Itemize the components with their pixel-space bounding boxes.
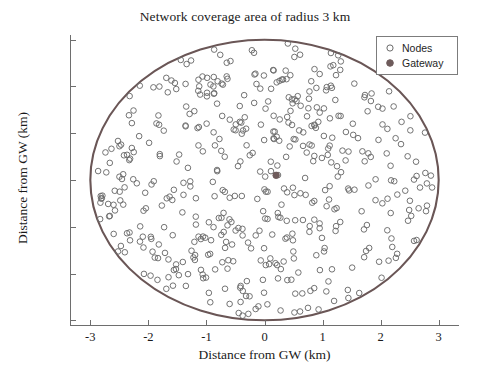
node-marker [140,234,146,240]
y-tick-mark [71,180,76,181]
node-marker [137,224,143,230]
node-marker [343,158,349,164]
node-marker [307,89,313,95]
node-marker [261,137,267,143]
node-marker [290,238,296,244]
node-marker [389,236,395,242]
node-marker [235,163,241,169]
node-marker [268,86,274,92]
node-marker [365,108,371,114]
node-marker [391,178,397,184]
node-marker [300,143,306,149]
node-marker [166,257,172,263]
x-axis-label: Distance from GW (km) [70,347,459,363]
node-markers-group [95,41,435,319]
node-marker [319,235,325,241]
node-marker [326,197,332,203]
node-marker [122,185,128,191]
node-marker [424,203,430,209]
node-marker [321,133,327,139]
x-tick-mark [148,320,149,325]
node-marker [369,91,375,97]
node-marker [388,163,394,169]
figure-canvas: Network coverage area of radius 3 km -3-… [0,0,490,376]
node-marker [424,181,430,187]
node-marker [304,113,310,119]
node-marker [188,58,194,64]
node-marker [327,116,333,122]
node-marker [265,99,271,105]
node-marker [268,256,274,262]
node-marker [306,105,312,111]
node-marker [376,259,382,265]
node-marker [323,88,329,94]
node-marker [416,205,422,211]
node-marker [275,163,281,169]
node-marker [345,287,351,293]
node-marker [261,245,267,251]
node-marker [170,232,176,238]
node-marker [212,143,218,149]
node-marker [136,133,142,139]
x-tick-label: -1 [201,330,211,345]
node-marker [291,256,297,262]
node-marker [193,222,199,228]
node-marker [115,249,121,255]
node-marker [405,154,411,160]
node-marker [407,198,413,204]
page-title: Network coverage area of radius 3 km [0,9,490,25]
node-marker [328,160,334,166]
node-marker [211,47,217,53]
node-marker [271,113,277,119]
gateway-marker-group [273,172,279,178]
node-marker [227,195,233,201]
filled-circle-icon [381,58,399,68]
node-marker [275,276,281,282]
x-tick-mark [265,320,266,325]
node-marker [346,149,352,155]
node-marker [210,179,216,185]
node-marker [254,81,260,87]
node-marker [187,111,193,117]
node-marker [399,119,405,125]
x-tick-mark [206,320,207,325]
node-marker [262,174,268,180]
node-marker [352,81,358,87]
node-marker [329,135,335,141]
node-marker [305,305,311,311]
node-marker [207,299,213,305]
node-marker [127,93,133,99]
node-marker [129,120,135,126]
node-marker [148,273,154,279]
node-marker [292,54,298,60]
coverage-boundary-circle [90,40,438,321]
x-tick-mark [90,320,91,325]
node-marker [263,262,269,268]
x-tick-label: 2 [377,330,383,345]
node-marker [161,128,167,134]
node-marker [362,159,368,165]
node-marker [385,227,391,233]
node-marker [141,271,147,277]
node-marker [391,104,397,110]
node-marker [103,150,109,156]
node-marker [111,231,117,237]
node-marker [211,130,217,136]
node-marker [157,84,163,90]
node-marker [368,98,374,104]
node-marker [361,254,367,260]
node-marker [253,233,259,239]
node-marker [180,259,186,265]
node-marker [384,151,390,157]
node-marker [346,295,352,301]
node-marker [258,258,264,264]
node-marker [265,302,271,308]
node-marker [208,237,214,243]
node-marker [176,152,182,158]
node-marker [329,267,335,273]
node-marker [156,242,162,248]
legend-label-nodes: Nodes [399,42,432,54]
node-marker [285,277,291,283]
node-marker [279,202,285,208]
node-marker [393,135,399,141]
